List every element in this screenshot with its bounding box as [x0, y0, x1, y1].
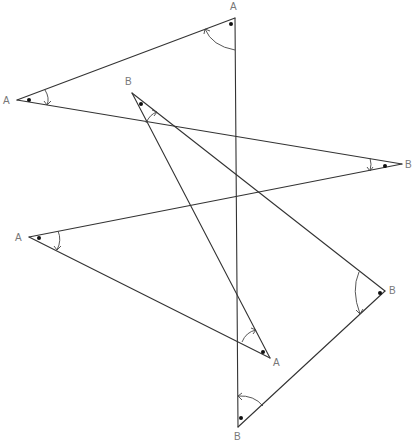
vertex-dot-v5	[261, 350, 265, 354]
vertex-label-v8: B	[234, 431, 241, 442]
vertex-dot-v2	[27, 98, 31, 102]
arrowhead-icon	[238, 393, 242, 400]
vertex-label-v1: A	[230, 1, 237, 12]
vertex-dots	[27, 22, 387, 420]
edge-v1-v2	[17, 18, 235, 100]
edge-v6-v7	[132, 93, 385, 291]
diagram-canvas: A A B A A B B B	[0, 0, 413, 442]
angle-arcs	[44, 29, 373, 406]
edge-v8-v1	[235, 18, 238, 427]
vertex-dot-v7	[378, 291, 382, 295]
vertex-label-v5: A	[273, 357, 280, 368]
angle-arc-v7	[355, 272, 360, 314]
angle-arc-v1	[205, 29, 235, 50]
vertex-dot-v3	[383, 164, 387, 168]
angle-arc-v8	[238, 396, 263, 406]
edge-v3-v4	[29, 164, 402, 237]
vertex-dot-v1	[229, 22, 233, 26]
vertex-label-v3: B	[405, 159, 412, 170]
vertex-dot-v8	[239, 416, 243, 420]
polygon-edges	[17, 18, 402, 427]
vertex-labels: A A B A A B B B	[3, 1, 412, 442]
angle-arc-v5	[242, 330, 256, 342]
angle-arc-v3	[370, 158, 371, 171]
edge-v7-v8	[238, 291, 385, 427]
edge-v5-v6	[132, 93, 270, 358]
vertex-label-v4: A	[15, 232, 22, 243]
edge-v4-v5	[29, 237, 270, 358]
edge-v2-v3	[17, 100, 402, 164]
vertex-label-v6: B	[125, 76, 132, 87]
vertex-dot-v6	[139, 102, 143, 106]
vertex-dot-v4	[37, 236, 41, 240]
vertex-label-v2: A	[3, 95, 10, 106]
vertex-label-v7: B	[389, 285, 396, 296]
